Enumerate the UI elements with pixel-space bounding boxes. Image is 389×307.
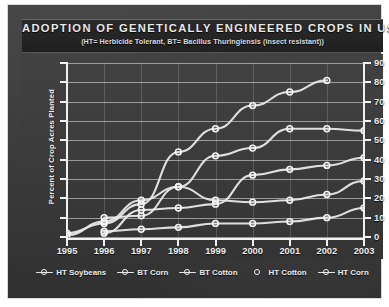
gridline-vertical [253,63,254,237]
x-axis-tick-label: 1998 [168,246,189,256]
series-line [67,80,327,233]
legend-circle-icon [184,269,190,275]
y-axis-tick-label: 50 [374,135,384,145]
y-axis-tick-right [364,101,371,103]
legend-circle-icon [122,269,128,275]
x-axis-tick-label: 1999 [205,246,226,256]
plot-area [67,63,364,237]
x-axis-tick-label: 2003 [354,246,375,256]
y-axis-tick-left [60,101,67,103]
y-axis-tick-right [364,197,371,199]
y-axis-tick-left [60,139,67,141]
y-axis-tick-label: 60 [374,116,384,126]
legend-marker-icon [318,268,335,277]
legend-item[interactable]: HT Soybeans [36,268,106,277]
legend-marker-icon [36,268,53,277]
gridline-vertical [104,63,105,237]
gridline-vertical [327,63,328,237]
legend-item-label: BT Corn [137,268,168,277]
legend-circle-icon [323,269,329,275]
x-axis-tick-label: 2000 [242,246,263,256]
y-axis-tick-left [60,159,67,161]
chart-board: Percent of Crop Acres Planted 0102030405… [22,54,383,259]
x-axis-tick-label: 1996 [94,246,115,256]
y-axis-tick-label: 0 [374,232,379,242]
y-axis-tick-label: 10 [374,213,384,223]
gridline-vertical [290,63,291,237]
legend-circle-icon [41,269,47,275]
y-axis-tick-label: 30 [374,174,384,184]
y-axis-tick-right [364,139,371,141]
legend-circle-icon [254,269,260,275]
legend-item[interactable]: BT Cotton [179,268,237,277]
y-axis-tick-left [60,62,67,64]
legend-marker-icon [249,268,266,277]
legend-item[interactable]: HT Corn [318,268,369,277]
y-axis-tick-left [60,197,67,199]
y-axis-tick-left [60,236,67,238]
y-axis-tick-label: 80 [374,77,384,87]
x-axis-tick-label: 2002 [317,246,338,256]
y-axis-tick-left [60,217,67,219]
gridline-horizontal [67,237,364,238]
y-axis-tick-right [364,81,371,83]
x-axis-tick-label: 2001 [279,246,300,256]
y-axis-tick-left [60,120,67,122]
x-axis-tick-label: 1995 [57,246,78,256]
gridline-vertical [216,63,217,237]
chart-title: Adoption of Genetically Engineered Crops… [22,22,383,34]
y-axis-tick-label: 90 [374,58,384,68]
y-axis-tick-right [364,178,371,180]
title-band: Adoption of Genetically Engineered Crops… [22,19,383,52]
legend-item[interactable]: BT Corn [117,268,168,277]
legend-item-label: HT Soybeans [56,268,106,277]
y-axis-tick-label: 40 [374,155,384,165]
y-axis-tick-left [60,178,67,180]
y-axis-tick-right [364,62,371,64]
gridline-vertical [67,63,68,237]
chart-subtitle: (HT= Herbicide Tolerant, BT= Bacillus Th… [22,37,383,46]
legend-item-label: HT Cotton [269,268,307,277]
x-axis-tick-label: 1997 [131,246,152,256]
poster-panel: Adoption of Genetically Engineered Crops… [8,5,381,298]
legend-item-label: BT Cotton [199,268,237,277]
y-axis-tick-right [364,120,371,122]
y-axis-tick-right [364,159,371,161]
gridline-vertical [141,63,142,237]
y-axis-title: Percent of Crop Acres Planted [47,72,56,222]
y-axis-tick-left [60,81,67,83]
y-axis-tick-right [364,236,371,238]
gridline-vertical [364,63,365,237]
chart-legend: HT SoybeansBT CornBT CottonHT CottonHT C… [22,263,383,281]
legend-item-label: HT Corn [338,268,369,277]
legend-item[interactable]: HT Cotton [249,268,307,277]
legend-marker-icon [117,268,134,277]
y-axis-tick-right [364,217,371,219]
y-axis-tick-label: 20 [374,193,384,203]
y-axis-tick-label: 70 [374,97,384,107]
gridline-vertical [178,63,179,237]
legend-marker-icon [179,268,196,277]
poster-root: Adoption of Genetically Engineered Crops… [0,0,389,307]
